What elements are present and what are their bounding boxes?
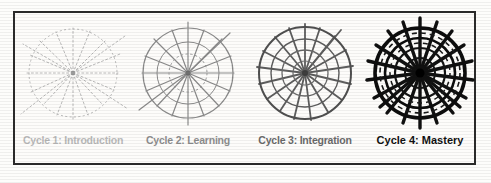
cycle-stage-2: Cycle 2: Learning	[130, 14, 246, 162]
mandala-diagram-1	[15, 14, 131, 132]
cycle-stage-2-label: Cycle 2: Learning	[130, 134, 246, 147]
mandala-diagram-2	[130, 14, 246, 132]
cycle-stage-1: Cycle 1: Introduction	[15, 14, 131, 162]
mandala-2-hub	[185, 70, 190, 75]
mandala-3-hub	[302, 70, 308, 76]
cycle-stage-3-label: Cycle 3: Integration	[247, 134, 363, 147]
mandala-4-hub	[416, 69, 425, 78]
cycle-stage-4-label: Cycle 4: Mastery	[362, 134, 478, 147]
mandala-diagram-4	[362, 14, 478, 132]
cycle-progression-row: Cycle 1: Introduction	[0, 0, 491, 183]
mandala-diagram-3	[247, 14, 363, 132]
cycle-stage-1-label: Cycle 1: Introduction	[15, 134, 131, 147]
figure-canvas: Cycle 1: Introduction	[0, 0, 491, 183]
cycle-stage-3: Cycle 3: Integration	[247, 14, 363, 162]
cycle-stage-4: Cycle 4: Mastery	[362, 14, 478, 162]
mandala-1-hub	[71, 71, 75, 75]
